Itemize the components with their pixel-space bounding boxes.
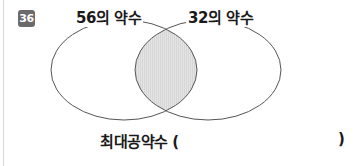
intersection-region xyxy=(135,20,281,120)
right-set-label: 32의 약수 xyxy=(186,9,255,27)
venn-diagram xyxy=(0,0,363,166)
left-set-label: 56의 약수 xyxy=(74,9,143,27)
answer-prompt: 최대공약수 ( xyxy=(100,130,179,151)
answer-close-paren: ) xyxy=(338,130,345,148)
